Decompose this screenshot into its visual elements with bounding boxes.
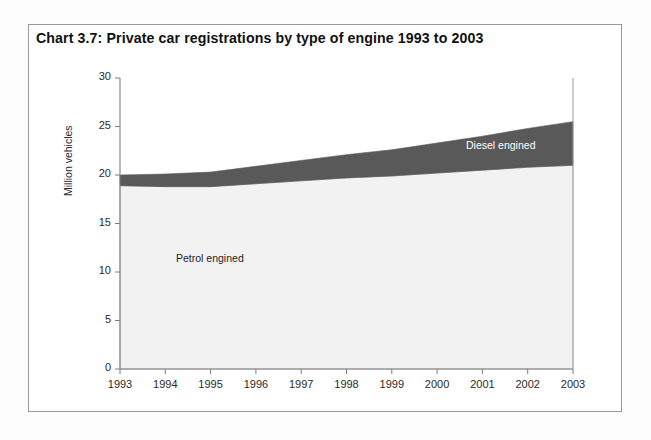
x-tick-label: 2000 xyxy=(425,378,449,390)
y-tick-label: 0 xyxy=(105,361,111,373)
y-tick-label: 5 xyxy=(105,313,111,325)
x-tick-label: 1998 xyxy=(334,378,358,390)
x-tick-label: 1996 xyxy=(244,378,268,390)
series-label-diesel: Diesel engined xyxy=(466,139,535,151)
x-tick-label: 1994 xyxy=(153,378,177,390)
y-tick-label: 20 xyxy=(99,167,111,179)
y-tick-label: 25 xyxy=(99,119,111,131)
x-tick-label: 2002 xyxy=(515,378,539,390)
chart-page: Chart 3.7: Private car registrations by … xyxy=(0,0,651,440)
y-tick-label: 15 xyxy=(99,216,111,228)
series-label-petrol: Petrol engined xyxy=(176,252,244,264)
chart-frame xyxy=(28,24,622,412)
y-tick-label: 30 xyxy=(99,70,111,82)
x-tick-label: 1993 xyxy=(108,378,132,390)
x-tick-label: 1999 xyxy=(380,378,404,390)
x-tick-label: 2001 xyxy=(470,378,494,390)
x-tick-label: 2003 xyxy=(561,378,585,390)
chart-title: Chart 3.7: Private car registrations by … xyxy=(36,30,483,46)
y-tick-label: 10 xyxy=(99,264,111,276)
x-tick-label: 1995 xyxy=(198,378,222,390)
y-axis-title: Million vehicles xyxy=(62,76,74,196)
x-tick-label: 1997 xyxy=(289,378,313,390)
